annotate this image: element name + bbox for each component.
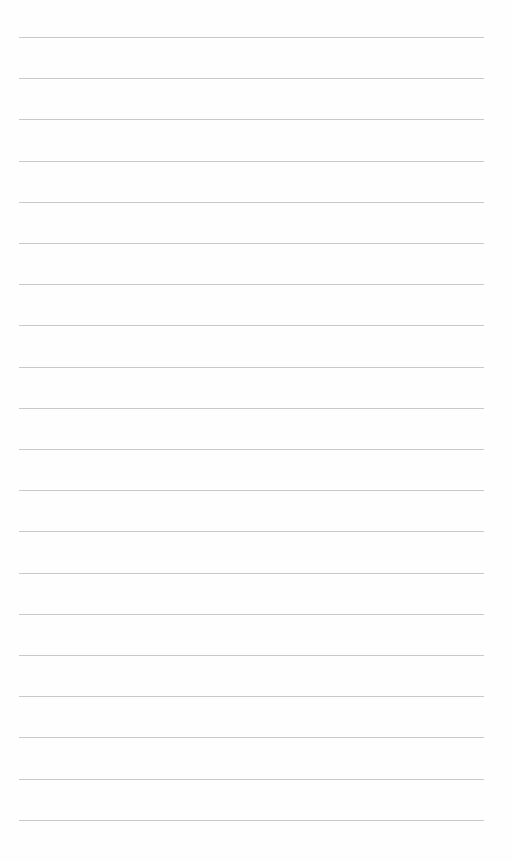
ruled-line [19, 119, 484, 120]
ruled-line [19, 573, 484, 574]
ruled-line [19, 490, 484, 491]
ruled-line [19, 367, 484, 368]
lined-paper [0, 0, 513, 862]
ruled-line [19, 408, 484, 409]
ruled-line [19, 696, 484, 697]
ruled-line [19, 531, 484, 532]
ruled-line [19, 325, 484, 326]
ruled-line [19, 161, 484, 162]
ruled-line [19, 449, 484, 450]
ruled-line [19, 737, 484, 738]
ruled-line [19, 202, 484, 203]
ruled-line [19, 779, 484, 780]
ruled-line [19, 655, 484, 656]
ruled-line [19, 820, 484, 821]
ruled-line [19, 243, 484, 244]
ruled-line [19, 284, 484, 285]
ruled-line [19, 78, 484, 79]
ruled-line [19, 37, 484, 38]
ruled-line [19, 614, 484, 615]
